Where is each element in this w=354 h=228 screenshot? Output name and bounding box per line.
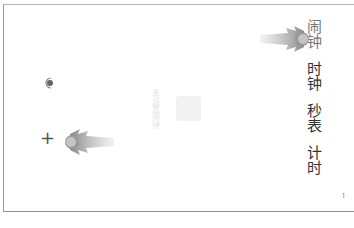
tab-clock[interactable]: 时钟	[304, 61, 322, 91]
tab-stopwatch[interactable]: 秒表	[304, 103, 322, 133]
more-menu-button[interactable]: ...	[341, 192, 351, 198]
microphone-icon[interactable]	[42, 76, 54, 90]
empty-state-text: 未设置闹钟	[149, 89, 160, 129]
tab-timer[interactable]: 计时	[304, 145, 322, 175]
alarm-empty-icon	[176, 96, 201, 121]
swipe-indicator-icon	[260, 25, 310, 53]
swipe-indicator-icon	[64, 128, 114, 156]
add-alarm-button[interactable]: +	[40, 129, 55, 147]
phone-screen: 闹钟 时钟 秒表 计时 ... 未设置闹钟 +	[3, 4, 354, 212]
